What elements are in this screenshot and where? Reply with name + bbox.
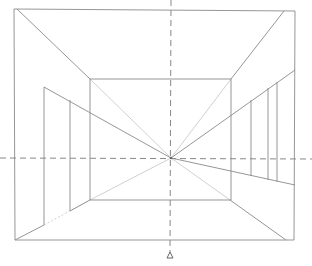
- perspective-diagram: [0, 0, 312, 266]
- center-line: [170, 0, 171, 252]
- room-lines: [14, 9, 295, 240]
- horizon-line: [0, 158, 312, 159]
- triangle-icon: [167, 252, 173, 258]
- vanishing-point: [170, 157, 172, 159]
- guide-lines: [44, 79, 231, 225]
